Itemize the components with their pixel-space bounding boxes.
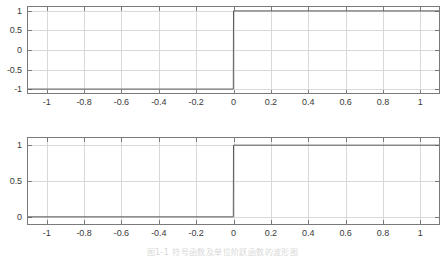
data-series-signum-function bbox=[28, 7, 439, 93]
x-axis-tick-label: -0.8 bbox=[76, 228, 91, 238]
y-axis-tick-label: -0.5 bbox=[0, 65, 22, 75]
subplot-unit-step: -1-0.8-0.6-0.4-0.200.20.40.60.8100.51 bbox=[0, 128, 445, 240]
x-axis-tick-label: 1 bbox=[418, 97, 423, 107]
x-axis-tick-label: -0.2 bbox=[189, 228, 204, 238]
x-axis-tick-label: -0.4 bbox=[151, 97, 166, 107]
x-axis-tick-label: 0.4 bbox=[302, 228, 314, 238]
plot-area-unit-step bbox=[27, 137, 440, 225]
x-axis-tick-label: 0.2 bbox=[265, 228, 277, 238]
x-axis-tick-label: 0.8 bbox=[377, 97, 389, 107]
y-axis-tick-label: 0 bbox=[0, 212, 22, 222]
step-curve bbox=[28, 145, 439, 217]
x-axis-tick-label: -0.6 bbox=[114, 97, 129, 107]
data-series-unit-step-function bbox=[28, 138, 439, 224]
step-curve bbox=[28, 11, 439, 89]
x-axis-tick-label: 0.8 bbox=[377, 228, 389, 238]
x-axis-tick-label: -0.6 bbox=[114, 228, 129, 238]
subplot-signum: -1-0.8-0.6-0.4-0.200.20.40.60.81-1-0.500… bbox=[0, 0, 445, 110]
y-axis-tick-label: 1 bbox=[0, 140, 22, 150]
x-axis-tick-label: 0 bbox=[231, 97, 236, 107]
x-axis-tick-label: 0.2 bbox=[265, 97, 277, 107]
x-axis-tick-label: -0.4 bbox=[151, 228, 166, 238]
y-axis-tick-label: -1 bbox=[0, 84, 22, 94]
x-axis-tick-label: -1 bbox=[43, 228, 51, 238]
x-axis-tick-label: 0.6 bbox=[339, 228, 351, 238]
y-axis-tick-label: 0.5 bbox=[0, 176, 22, 186]
y-axis-tick-label: 0.5 bbox=[0, 25, 22, 35]
x-axis-tick-label: -0.8 bbox=[76, 97, 91, 107]
y-axis-tick-label: 0 bbox=[0, 45, 22, 55]
x-axis-tick-label: 0.6 bbox=[339, 97, 351, 107]
x-axis-tick-label: 1 bbox=[418, 228, 423, 238]
y-axis-tick-label: 1 bbox=[0, 6, 22, 16]
x-axis-tick-label: 0.4 bbox=[302, 97, 314, 107]
x-axis-tick-label: 0 bbox=[231, 228, 236, 238]
figure-caption: 图1-1 符号函数及单位阶跃函数的波形图 bbox=[0, 246, 445, 257]
x-axis-tick-label: -1 bbox=[43, 97, 51, 107]
plot-area-signum bbox=[27, 6, 440, 94]
x-axis-tick-label: -0.2 bbox=[189, 97, 204, 107]
